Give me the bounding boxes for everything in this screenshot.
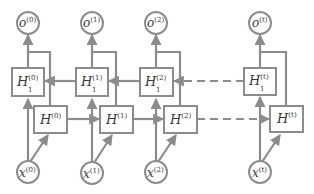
column-2 [156, 35, 180, 162]
column-t [260, 35, 286, 162]
column-1 [92, 35, 116, 163]
rnn-diagram: o(0) o(1) o(2) o(t) H(0) 1 H(1) 1 H(2) 1… [0, 0, 314, 194]
column-0 [28, 35, 50, 162]
backward-hidden-sub-0: 1 [28, 86, 32, 94]
backward-hidden-sub-1: 1 [92, 86, 96, 94]
backward-hidden-sub-2: 1 [156, 86, 160, 94]
backward-hidden-sub-t: 1 [260, 85, 264, 93]
